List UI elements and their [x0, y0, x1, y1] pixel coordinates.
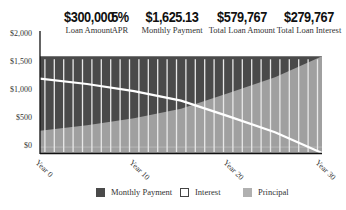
legend-principal-label: Principal	[258, 187, 289, 197]
amortization-chart	[0, 0, 346, 210]
monthly-payment-swatch	[96, 188, 105, 197]
legend-principal[interactable]: Principal	[243, 187, 289, 197]
interest-swatch	[180, 188, 189, 197]
legend-interest[interactable]: Interest	[180, 187, 221, 197]
legend-monthly-payment[interactable]: Monthly Payment	[96, 187, 172, 197]
legend-interest-label: Interest	[195, 187, 221, 197]
legend-monthly-payment-label: Monthly Payment	[111, 187, 172, 197]
principal-swatch	[243, 188, 252, 197]
